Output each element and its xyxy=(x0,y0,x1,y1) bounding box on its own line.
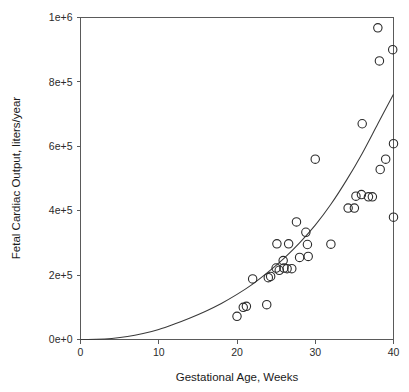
y-axis-title: Fetal Cardiac Output, liters/year xyxy=(10,97,22,260)
data-point-marker xyxy=(327,240,335,248)
data-point-marker xyxy=(358,120,366,128)
data-point-marker xyxy=(304,252,312,260)
x-tick-label: 40 xyxy=(388,346,400,358)
regression-fit-curve xyxy=(81,94,394,339)
data-point-marker xyxy=(303,240,311,248)
x-tick-label: 10 xyxy=(153,346,165,358)
data-point-marker xyxy=(284,240,292,248)
data-point-marker xyxy=(295,253,303,261)
data-point-marker xyxy=(374,24,382,32)
y-tick-label: 6e+5 xyxy=(49,140,73,152)
data-point-marker xyxy=(311,155,319,163)
y-axis-ticks: 0e+02e+54e+56e+58e+51e+6 xyxy=(49,11,81,345)
y-tick-label: 0e+0 xyxy=(49,333,73,345)
data-point-marker xyxy=(233,312,241,320)
y-tick-label: 1e+6 xyxy=(49,11,73,23)
data-point-series xyxy=(233,24,398,321)
x-axis-ticks: 010203040 xyxy=(78,340,400,358)
data-point-marker xyxy=(292,218,300,226)
scatter-plot-canvas: 0e+02e+54e+56e+58e+51e+6 010203040 Gesta… xyxy=(0,0,409,392)
data-point-marker xyxy=(273,240,281,248)
y-tick-label: 2e+5 xyxy=(49,269,73,281)
x-tick-label: 0 xyxy=(78,346,84,358)
y-tick-label: 4e+5 xyxy=(49,204,73,216)
data-point-marker xyxy=(376,165,384,173)
data-point-marker xyxy=(266,272,274,280)
data-point-marker xyxy=(381,155,389,163)
data-point-marker xyxy=(263,301,271,309)
x-tick-label: 30 xyxy=(309,346,321,358)
fit-curve-path xyxy=(81,94,394,339)
x-tick-label: 20 xyxy=(231,346,243,358)
x-axis-title: Gestational Age, Weeks xyxy=(176,371,299,383)
plot-border xyxy=(81,18,394,340)
y-tick-label: 8e+5 xyxy=(49,76,73,88)
data-point-marker xyxy=(375,57,383,65)
data-point-marker xyxy=(352,192,360,200)
data-point-marker xyxy=(350,204,358,212)
data-point-marker xyxy=(248,275,256,283)
axes-frame xyxy=(81,18,394,340)
data-point-marker xyxy=(389,46,397,54)
chart-figure: 0e+02e+54e+56e+58e+51e+6 010203040 Gesta… xyxy=(0,0,409,392)
